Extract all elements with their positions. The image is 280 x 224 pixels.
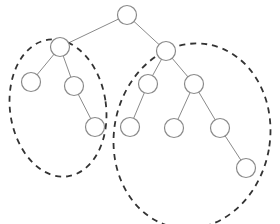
tree-node-lr — [65, 77, 84, 96]
tree-node-rr — [185, 75, 204, 94]
tree-node-rrl — [165, 119, 184, 138]
tree-node-root — [118, 6, 137, 25]
tree-node-rl — [139, 75, 158, 94]
tree-svg — [0, 0, 280, 224]
tree-node-ll — [22, 73, 41, 92]
tree-node-l — [51, 38, 70, 57]
subtree-outlines — [1, 31, 280, 224]
tree-node-rrr — [211, 119, 230, 138]
nodes — [22, 6, 256, 178]
tree-diagram — [0, 0, 280, 224]
tree-node-lrr — [86, 118, 105, 137]
edge-root-l — [60, 15, 127, 47]
tree-node-rll — [121, 118, 140, 137]
tree-node-rrrr — [237, 159, 256, 178]
tree-node-r — [157, 42, 176, 61]
